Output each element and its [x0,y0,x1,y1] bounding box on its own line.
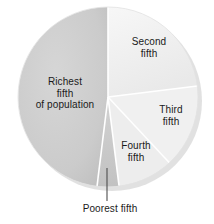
pie-chart-figure: Second fifth Third fifth Fourth fifth Ri… [0,0,214,224]
pie-slice-second-fifth [108,7,197,97]
pie-slice-richest-fifth [18,7,108,186]
pie-chart-canvas [0,0,214,224]
